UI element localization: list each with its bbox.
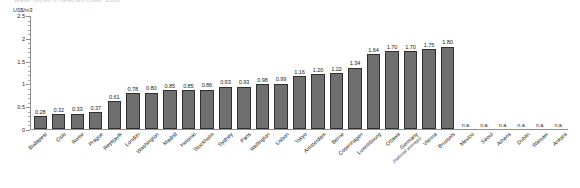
bar-value-label: 1.64 [368, 47, 379, 53]
y-tick-minor [28, 94, 30, 95]
bar-value-label: 1.34 [350, 60, 361, 66]
x-axis-label: Madrid [162, 131, 178, 146]
y-tick-minor [28, 52, 30, 53]
y-tick-mark [26, 130, 30, 131]
bar[interactable] [182, 90, 195, 129]
bar[interactable] [52, 114, 65, 129]
bar-series: 0.280.320.330.370.610.780.800.850.850.86… [31, 16, 568, 129]
y-tick-minor [28, 80, 30, 81]
x-axis-label: Sydney [216, 131, 233, 147]
bar-na-label: n.a. [499, 122, 508, 128]
x-axis-label: Ankara [551, 131, 568, 147]
bar-slot: 0.93 [235, 16, 254, 129]
bar-value-label: 0.78 [128, 86, 139, 92]
bar-slot: 0.61 [105, 16, 124, 129]
y-tick-minor [28, 112, 30, 113]
bar-na-label: n.a. [536, 122, 545, 128]
bar-slot: n.a. [531, 16, 550, 129]
bar-slot: 1.22 [327, 16, 346, 129]
bar-value-label: 0.32 [54, 107, 65, 113]
bar[interactable] [256, 84, 269, 129]
y-tick-mark [26, 16, 30, 17]
bar-slot: 1.20 [309, 16, 328, 129]
x-axis-label: Brussels [437, 131, 456, 149]
bar[interactable] [89, 112, 102, 129]
x-axis-label: Paris [239, 131, 252, 144]
y-tick-mark [26, 39, 30, 40]
bar-slot: n.a. [475, 16, 494, 129]
bar[interactable] [348, 68, 361, 129]
y-tick-minor [28, 103, 30, 104]
y-tick-minor [28, 43, 30, 44]
bar-value-label: 1.16 [294, 69, 305, 75]
x-axis-label: Berne [330, 131, 345, 145]
y-tick-label: 0.5 [17, 104, 25, 110]
bar-slot: 1.75 [420, 16, 439, 129]
x-axis-label: Oslo [55, 131, 67, 143]
bar-value-label: 0.80 [146, 85, 157, 91]
x-axis-label: Mexico [458, 131, 475, 147]
bar[interactable] [237, 87, 250, 129]
bar-slot: 0.32 [50, 16, 69, 129]
x-axis-label: Lisbon [274, 131, 290, 146]
bar[interactable] [145, 93, 158, 129]
bar-slot: 0.85 [179, 16, 198, 129]
bar-slot: 1.70 [383, 16, 402, 129]
plot-area: 00.511.522.5 0.280.320.330.370.610.780.8… [30, 16, 568, 130]
bar-slot: n.a. [549, 16, 568, 129]
bar[interactable] [404, 51, 417, 129]
y-tick-minor [28, 25, 30, 26]
bar-value-label: 0.86 [202, 82, 213, 88]
bar-slot: 0.33 [68, 16, 87, 129]
bar[interactable] [200, 90, 213, 129]
bar[interactable] [367, 54, 380, 129]
y-tick-minor [28, 48, 30, 49]
bar-slot: n.a. [494, 16, 513, 129]
bar[interactable] [34, 116, 47, 129]
y-tick-mark [26, 62, 30, 63]
y-tick-label: 1 [22, 81, 25, 87]
water-price-bar-chart: Water prices in selected cities, 2008 US… [0, 0, 580, 188]
bar-slot: 0.78 [124, 16, 143, 129]
bar[interactable] [293, 76, 306, 129]
bar-value-label: 0.99 [276, 76, 287, 82]
bar-value-label: 1.22 [331, 66, 342, 72]
x-axis-label: Dublin [515, 131, 530, 146]
bar[interactable] [108, 101, 121, 129]
y-tick-minor [28, 98, 30, 99]
bar-value-label: 0.85 [183, 83, 194, 89]
bar-slot: 0.93 [216, 16, 235, 129]
bar[interactable] [163, 90, 176, 129]
y-tick-minor [28, 30, 30, 31]
bar-slot: 1.80 [438, 16, 457, 129]
bar-na-label: n.a. [517, 122, 526, 128]
bar[interactable] [441, 47, 454, 129]
bar[interactable] [219, 87, 232, 129]
bar-value-label: 0.61 [109, 94, 120, 100]
y-tick-mark [26, 107, 30, 108]
bar-na-label: n.a. [480, 122, 489, 128]
bar-slot: 1.34 [346, 16, 365, 129]
y-tick-minor [28, 84, 30, 85]
bar-value-label: 1.70 [387, 44, 398, 50]
x-axis-baseline [30, 129, 568, 130]
bar[interactable] [330, 73, 343, 129]
bar-value-label: 0.85 [165, 83, 176, 89]
y-tick-minor [28, 34, 30, 35]
bar-slot: n.a. [457, 16, 476, 129]
x-axis-label: Athens [496, 131, 512, 147]
bar[interactable] [71, 114, 84, 129]
bar[interactable] [385, 51, 398, 129]
bar-slot: n.a. [512, 16, 531, 129]
bar[interactable] [126, 93, 139, 129]
bar[interactable] [274, 84, 287, 129]
y-tick-label: 1.5 [17, 59, 25, 65]
x-axis-category-labels: BudapestOsloRomePragueReykjavikLondonWas… [31, 131, 569, 188]
bar[interactable] [311, 74, 324, 129]
bar[interactable] [422, 49, 435, 129]
y-tick-minor [28, 125, 30, 126]
y-tick-label: 0 [22, 127, 25, 133]
bar-slot: 0.99 [272, 16, 291, 129]
x-axis-label: Rome [71, 131, 86, 145]
bar-na-label: n.a. [554, 122, 563, 128]
